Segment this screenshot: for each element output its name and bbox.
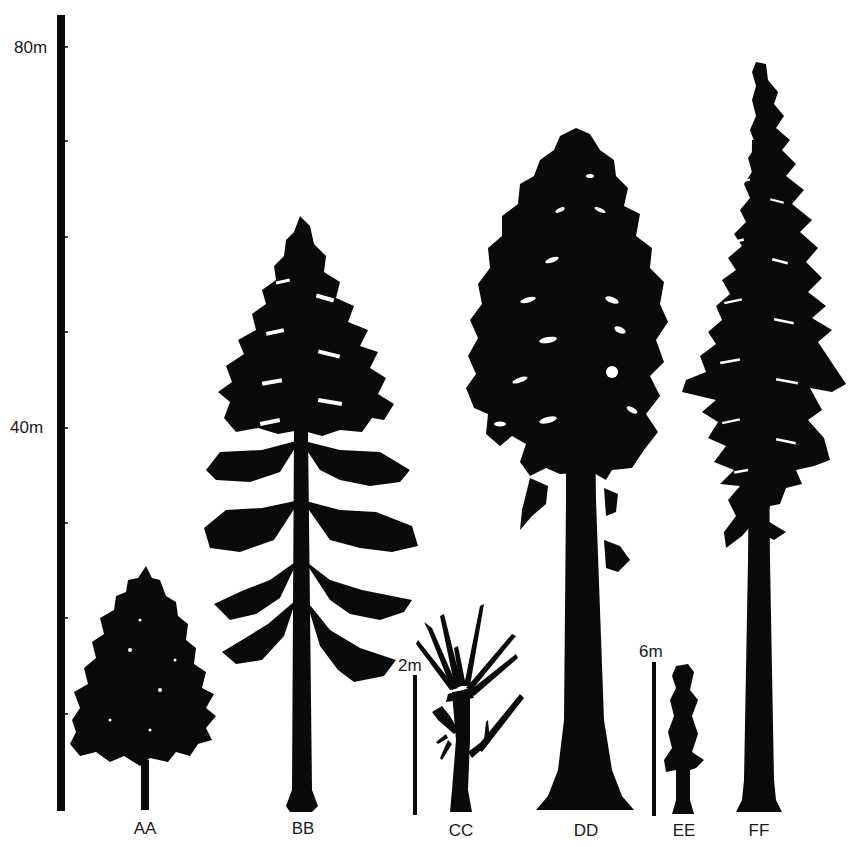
tree-label-cc: CC bbox=[431, 822, 491, 839]
tree-label-ee: EE bbox=[654, 822, 714, 839]
tree-ff-silhouette bbox=[0, 0, 864, 847]
tree-height-figure: 80m 40m bbox=[0, 0, 864, 847]
tree-label-dd: DD bbox=[556, 822, 616, 839]
tree-label-aa: AA bbox=[115, 820, 175, 837]
tree-label-ff: FF bbox=[729, 822, 789, 839]
tree-label-bb: BB bbox=[273, 820, 333, 837]
